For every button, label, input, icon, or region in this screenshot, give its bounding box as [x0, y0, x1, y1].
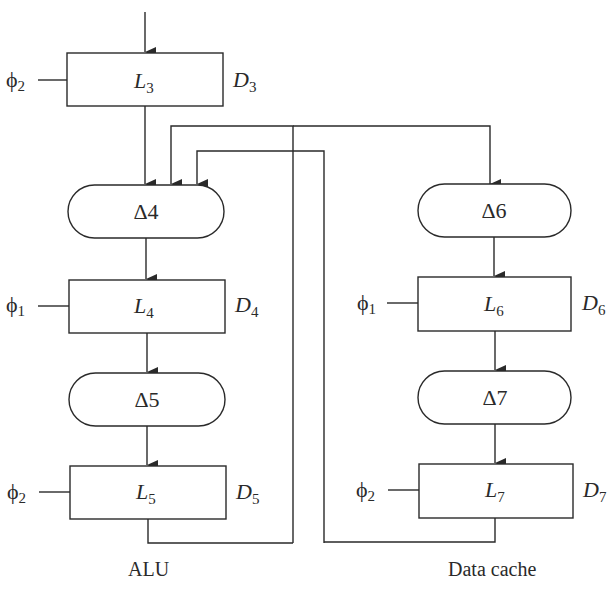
svg-text:Δ5: Δ5 — [134, 387, 159, 412]
pipeline-diagram: ϕ2 L3 D3 Δ4 ϕ1 L4 D4 Δ5 ϕ2 L5 D5 ALU — [0, 0, 614, 589]
alu-label: ALU — [128, 558, 170, 580]
latch-l4: ϕ1 L4 D4 — [6, 280, 259, 333]
svg-text:D5: D5 — [235, 479, 259, 507]
logic-block-d7: Δ7 — [418, 371, 571, 424]
l7-output-wire — [324, 518, 495, 542]
svg-text:Δ6: Δ6 — [481, 198, 506, 223]
svg-text:Δ4: Δ4 — [133, 199, 158, 224]
logic-block-d4: Δ4 — [68, 185, 224, 238]
wire-to-d6 — [293, 126, 490, 184]
svg-text:Δ7: Δ7 — [482, 385, 507, 410]
svg-text:D4: D4 — [234, 292, 259, 320]
logic-block-d6: Δ6 — [418, 184, 571, 237]
clock-label-l3: ϕ2 — [6, 67, 25, 94]
latch-l3: ϕ2 L3 D3 — [6, 53, 256, 106]
latch-l7: ϕ2 L7 D7 — [356, 464, 607, 518]
delay-label-d3: D3 — [232, 67, 256, 95]
latch-l6: ϕ1 L6 D6 — [357, 277, 606, 331]
svg-text:ϕ1: ϕ1 — [357, 290, 376, 317]
latch-l5: ϕ2 L5 D5 — [7, 466, 259, 519]
svg-text:ϕ1: ϕ1 — [6, 292, 25, 319]
svg-text:ϕ2: ϕ2 — [7, 479, 26, 506]
svg-text:ϕ2: ϕ2 — [356, 477, 375, 504]
l5-output-wire — [148, 519, 293, 543]
svg-text:D6: D6 — [581, 290, 606, 318]
logic-block-d5: Δ5 — [69, 373, 225, 426]
data-cache-label: Data cache — [448, 558, 536, 580]
svg-text:D7: D7 — [582, 477, 607, 505]
